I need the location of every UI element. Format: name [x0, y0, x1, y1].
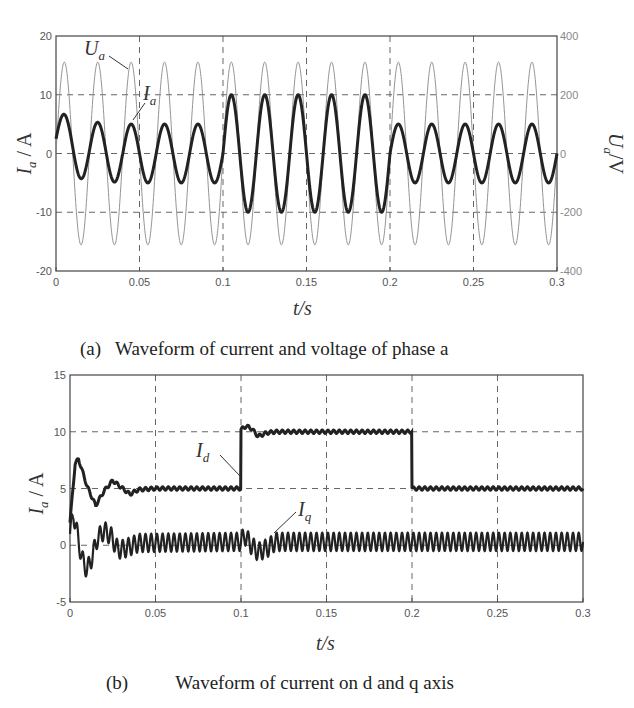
y-tick-label: 0: [46, 148, 52, 160]
chart-b-caption: (b) Waveform of current on d and q axis: [106, 672, 454, 694]
chart-a-plot: 00.050.10.150.20.250.320100-10-204002000…: [36, 30, 582, 288]
x-tick-label: 0.1: [215, 276, 230, 288]
y-right-tick-label: -200: [560, 206, 582, 218]
caption-b-label: (b): [106, 672, 128, 693]
chart-b-plot: 00.050.10.150.20.250.3151050-5IdIq: [54, 369, 591, 619]
y-right-tick-label: -400: [560, 265, 582, 277]
y-tick-label: -10: [36, 206, 52, 218]
chart-a-xlabel: t/s: [293, 297, 312, 320]
ylabel-right-symbol: U: [605, 133, 627, 147]
y-tick-label: 15: [54, 369, 66, 381]
chart-a-ylabel-right: Ua/V: [600, 124, 627, 184]
annotation-Iq: Iq: [297, 498, 312, 524]
y-right-tick-label: 200: [560, 89, 578, 101]
y-right-tick-label: 0: [560, 148, 566, 160]
x-tick-label: 0.3: [549, 276, 564, 288]
annotation-Id-leader: [220, 455, 240, 476]
y-tick-label: 10: [54, 426, 66, 438]
x-tick-label: 0.1: [233, 607, 248, 619]
y-tick-label: 20: [40, 30, 52, 42]
y-right-tick-label: 400: [560, 30, 578, 42]
y-tick-label: -5: [56, 596, 66, 608]
y-tick-label: 10: [40, 89, 52, 101]
y-tick-label: 0: [60, 539, 66, 551]
chart-a-ylabel-left: Ia / A: [13, 124, 40, 184]
x-tick-label: 0.25: [487, 607, 508, 619]
x-tick-label: 0.15: [296, 276, 317, 288]
annotation-Ua: Ua: [84, 37, 105, 63]
y-tick-label: 5: [60, 483, 66, 495]
ylabel-right-unit: /V: [605, 154, 627, 174]
ylabel-symbol: I: [13, 168, 35, 175]
chart-a-caption: (a) Waveform of current and voltage of p…: [80, 338, 448, 360]
x-tick-label: 0.15: [316, 607, 337, 619]
annotation-Iq-leader: [274, 512, 296, 533]
x-tick-label: 0.3: [575, 607, 590, 619]
ylabel-b-unit: / A: [25, 472, 47, 501]
chart-b-xlabel: t/s: [316, 632, 335, 655]
caption-a-label: (a): [80, 338, 101, 359]
x-tick-label: 0.05: [145, 607, 166, 619]
ylabel-unit: / A: [13, 132, 35, 161]
ylabel-b-symbol: I: [25, 508, 47, 515]
x-tick-label: 0: [67, 607, 73, 619]
x-tick-label: 0.25: [463, 276, 484, 288]
chart-b-ylabel: Ia / A: [25, 464, 52, 524]
y-tick-label: -20: [36, 265, 52, 277]
annotation-Id: Id: [195, 439, 210, 465]
annotation-Ua-leader: [109, 56, 128, 69]
x-tick-label: 0.05: [129, 276, 150, 288]
ylabel-b-subscript: a: [36, 501, 51, 508]
x-tick-label: 0: [53, 276, 59, 288]
caption-b-text: Waveform of current on d and q axis: [175, 672, 454, 693]
x-tick-label: 0.2: [404, 607, 419, 619]
ylabel-subscript: a: [24, 161, 39, 168]
x-tick-label: 0.2: [382, 276, 397, 288]
caption-a-text: Waveform of current and voltage of phase…: [115, 338, 448, 359]
